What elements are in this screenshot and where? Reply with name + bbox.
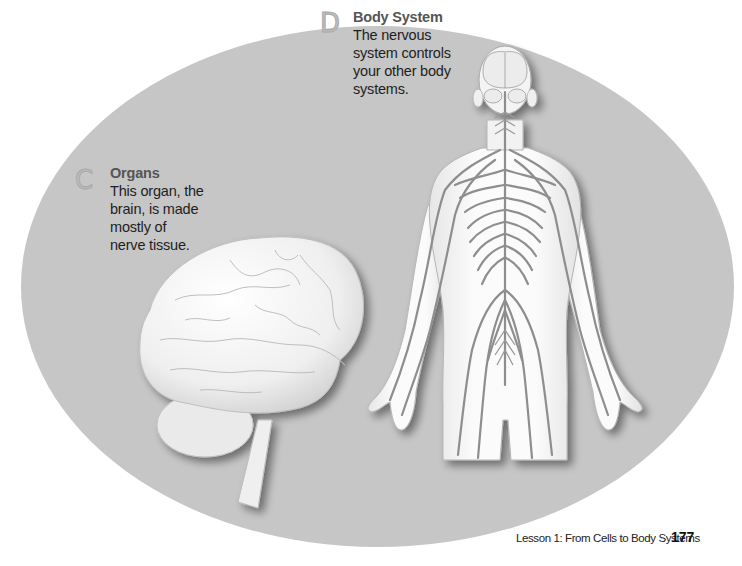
callout-body-system: D Body System The nervous system control… [353, 8, 513, 98]
callout-title: Body System [353, 8, 513, 26]
callout-text-line: mostly of [110, 218, 250, 236]
callout-text-line: systems. [353, 80, 513, 98]
callout-text-line: system controls [353, 44, 513, 62]
callout-text-line: The nervous [353, 26, 513, 44]
callout-text-line: your other body [353, 62, 513, 80]
callout-letter-c: C [75, 167, 93, 193]
callout-organs: C Organs This organ, the brain, is made … [110, 164, 250, 254]
callout-text-line: This organ, the [110, 182, 250, 200]
callout-letter-d: D [320, 10, 340, 36]
nervous-system-illustration [368, 46, 642, 460]
page-number: 177 [671, 529, 694, 545]
callout-text-line: nerve tissue. [110, 236, 250, 254]
callout-title: Organs [110, 164, 250, 182]
callout-text-line: brain, is made [110, 200, 250, 218]
brain-illustration [140, 237, 364, 508]
